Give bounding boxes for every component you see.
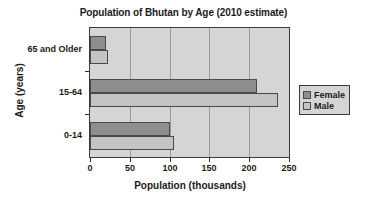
x-tick-label: 50 bbox=[115, 163, 145, 173]
x-tick-label: 200 bbox=[234, 163, 264, 173]
x-tick-mark bbox=[130, 158, 131, 162]
bar-female-65-and-older bbox=[90, 36, 106, 50]
legend-swatch-male-icon bbox=[303, 102, 311, 110]
legend-label-female: Female bbox=[314, 90, 345, 100]
x-tick-label: 0 bbox=[75, 163, 105, 173]
y-tick-label: 0-14 bbox=[64, 130, 82, 140]
legend: Female Male bbox=[299, 85, 350, 115]
y-tick-label: 15-64 bbox=[59, 87, 82, 97]
bar-male-0-14 bbox=[90, 136, 174, 150]
chart-title: Population of Bhutan by Age (2010 estima… bbox=[0, 7, 367, 18]
x-tick-mark bbox=[209, 158, 210, 162]
bar-female-15-64 bbox=[90, 79, 257, 93]
x-tick-mark bbox=[170, 158, 171, 162]
legend-swatch-female-icon bbox=[303, 91, 311, 99]
bar-male-65-and-older bbox=[90, 50, 108, 64]
x-tick-label: 100 bbox=[155, 163, 185, 173]
bar-male-15-64 bbox=[90, 93, 278, 107]
x-tick-mark bbox=[90, 158, 91, 162]
x-tick-mark bbox=[289, 158, 290, 162]
x-tick-label: 250 bbox=[274, 163, 304, 173]
x-tick-mark bbox=[249, 158, 250, 162]
bar-chart: Population of Bhutan by Age (2010 estima… bbox=[0, 0, 367, 205]
y-axis-title: Age (years) bbox=[14, 46, 25, 136]
bar-female-0-14 bbox=[90, 122, 170, 136]
y-tick-label: 65 and Older bbox=[27, 44, 82, 54]
x-tick-label: 150 bbox=[194, 163, 224, 173]
legend-label-male: Male bbox=[314, 101, 334, 111]
y-tick-mark bbox=[85, 71, 89, 72]
legend-item[interactable]: Male bbox=[303, 100, 345, 111]
plot-area bbox=[89, 27, 290, 158]
x-axis-title: Population (thousands) bbox=[60, 180, 320, 191]
y-tick-mark bbox=[85, 114, 89, 115]
legend-item[interactable]: Female bbox=[303, 89, 345, 100]
